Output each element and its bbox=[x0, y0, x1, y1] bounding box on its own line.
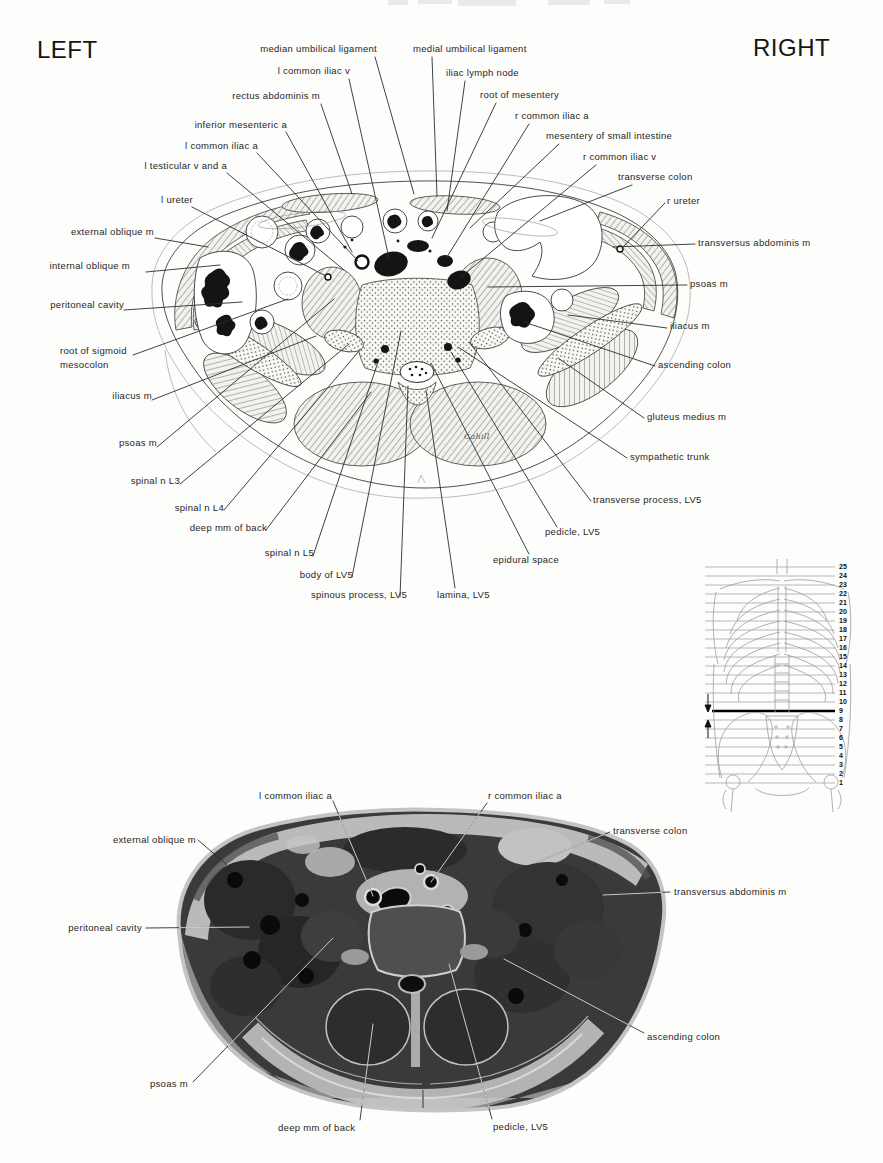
left-psoas-muscle bbox=[302, 267, 362, 339]
label-l-ureter: l ureter bbox=[161, 193, 193, 207]
scan-artifact bbox=[388, 0, 630, 6]
photo-label-deep-mm-of-back: deep mm of back bbox=[278, 1121, 355, 1135]
label-transverse-colon: transverse colon bbox=[618, 170, 693, 184]
figures-artwork bbox=[0, 0, 883, 1163]
leader-line bbox=[375, 57, 414, 194]
label-psoas-m-left: psoas m bbox=[119, 436, 157, 450]
label-spinal-n-L4: spinal n L4 bbox=[175, 501, 224, 515]
right-marker: RIGHT bbox=[753, 34, 830, 62]
leader-line bbox=[321, 104, 352, 194]
leader-line bbox=[432, 103, 496, 238]
locator-level-number: 5 bbox=[839, 743, 843, 750]
label-gluteus-medius-m: gluteus medius m bbox=[647, 410, 726, 424]
label-pedicle-LV5: pedicle, LV5 bbox=[545, 525, 600, 539]
photo-label-psoas-m: psoas m bbox=[150, 1077, 188, 1091]
locator-level-number: 9 bbox=[839, 707, 843, 714]
photo-label-pedicle-LV5: pedicle, LV5 bbox=[493, 1120, 548, 1134]
vertebral-canal bbox=[400, 362, 434, 383]
label-mesentery-of-small-intestine: mesentery of small intestine bbox=[546, 129, 672, 143]
leader-line bbox=[432, 57, 437, 196]
locator-level-number: 10 bbox=[839, 698, 847, 705]
locator-level-number: 13 bbox=[839, 671, 847, 678]
label-iliac-lymph-node: iliac lymph node bbox=[446, 66, 519, 80]
label-l-common-iliac-v: l common iliac v bbox=[278, 64, 350, 78]
locator-level-number: 12 bbox=[839, 680, 847, 687]
label-root-of-mesentery: root of mesentery bbox=[480, 88, 559, 102]
label-transverse-process-LV5: transverse process, LV5 bbox=[593, 493, 702, 507]
photo-vertebral-body bbox=[369, 905, 465, 977]
label-psoas-m-right: psoas m bbox=[690, 277, 728, 291]
locator-figure bbox=[705, 559, 851, 812]
atlas-page: LEFT RIGHT median umbilical ligament l c… bbox=[0, 0, 883, 1163]
label-iliacus-m-right: iliacus m bbox=[670, 319, 710, 333]
label-internal-oblique-m: internal oblique m bbox=[50, 259, 130, 273]
locator-level-number: 24 bbox=[839, 572, 847, 579]
leader-line bbox=[447, 81, 465, 211]
left-ureter bbox=[325, 274, 331, 280]
label-medial-umbilical-ligament: medial umbilical ligament bbox=[413, 42, 527, 56]
locator-level-number: 6 bbox=[839, 734, 843, 741]
locator-level-number: 7 bbox=[839, 725, 843, 732]
locator-level-number: 20 bbox=[839, 608, 847, 615]
locator-level-number: 19 bbox=[839, 617, 847, 624]
label-lamina-LV5: lamina, LV5 bbox=[437, 588, 490, 602]
photo-label-external-oblique-m: external oblique m bbox=[113, 833, 196, 847]
label-sympathetic-trunk: sympathetic trunk bbox=[630, 450, 710, 464]
label-root-of-sigmoid-mesocolon: root of sigmoid mesocolon bbox=[60, 344, 127, 372]
section-level-arrows bbox=[705, 694, 711, 738]
locator-level-number: 1 bbox=[839, 779, 843, 786]
photo-back-muscle-left bbox=[326, 989, 410, 1065]
label-peritoneal-cavity: peritoneal cavity bbox=[50, 298, 124, 312]
photo-transverse-colon bbox=[498, 828, 572, 866]
locator-level-number: 25 bbox=[839, 563, 847, 570]
label-ascending-colon: ascending colon bbox=[658, 358, 731, 372]
photo-label-r-common-iliac-a: r common iliac a bbox=[488, 789, 562, 803]
label-r-common-iliac-a: r common iliac a bbox=[515, 109, 589, 123]
locator-level-number: 4 bbox=[839, 752, 843, 759]
locator-level-number: 8 bbox=[839, 716, 843, 723]
label-spinal-n-L3: spinal n L3 bbox=[131, 474, 180, 488]
left-common-iliac-artery bbox=[356, 256, 369, 269]
label-inferior-mesenteric-a: inferior mesenteric a bbox=[195, 118, 287, 132]
drawing-cross-section bbox=[152, 171, 690, 498]
photo-label-transverse-colon: transverse colon bbox=[613, 824, 688, 838]
photo-label-ascending-colon: ascending colon bbox=[647, 1030, 720, 1044]
photo-vertebral-canal bbox=[399, 975, 425, 993]
locator-level-number: 18 bbox=[839, 626, 847, 633]
locator-level-number: 17 bbox=[839, 635, 847, 642]
label-r-ureter: r ureter bbox=[667, 194, 700, 208]
label-rectus-abdominis-m: rectus abdominis m bbox=[232, 89, 320, 103]
photo-label-peritoneal-cavity: peritoneal cavity bbox=[68, 921, 142, 935]
label-deep-mm-of-back: deep mm of back bbox=[190, 521, 267, 535]
label-spinal-n-L5: spinal n L5 bbox=[265, 546, 314, 560]
artist-signature: Cahill bbox=[464, 432, 490, 441]
label-iliacus-m-left: iliacus m bbox=[112, 389, 152, 403]
transverse-colon-loop bbox=[495, 196, 602, 280]
photo-label-l-common-iliac-a: l common iliac a bbox=[259, 789, 332, 803]
label-body-of-LV5: body of LV5 bbox=[300, 568, 353, 582]
locator-level-number: 22 bbox=[839, 590, 847, 597]
locator-level-number: 15 bbox=[839, 653, 847, 660]
left-common-iliac-vein bbox=[372, 248, 411, 280]
leader-line bbox=[155, 238, 208, 247]
locator-level-number: 14 bbox=[839, 662, 847, 669]
locator-level-number: 23 bbox=[839, 581, 847, 588]
label-r-common-iliac-v: r common iliac v bbox=[583, 150, 656, 164]
photo-back-muscle-right bbox=[424, 989, 508, 1065]
locator-level-number: 3 bbox=[839, 761, 843, 768]
locator-level-number: 2 bbox=[839, 770, 843, 777]
label-median-umbilical-ligament: median umbilical ligament bbox=[260, 42, 377, 56]
photo-left-common-iliac-artery bbox=[365, 889, 381, 905]
down-arrow-icon bbox=[705, 694, 711, 712]
label-external-oblique-m: external oblique m bbox=[71, 225, 154, 239]
locator-level-number: 11 bbox=[839, 689, 846, 696]
right-spinal-nerve bbox=[444, 343, 452, 351]
photo-cross-section bbox=[179, 810, 665, 1125]
label-l-testicular-v-and-a: l testicular v and a bbox=[144, 159, 227, 173]
label-l-common-iliac-a: l common iliac a bbox=[185, 139, 258, 153]
right-common-iliac-artery bbox=[437, 255, 453, 267]
label-spinous-process-LV5: spinous process, LV5 bbox=[311, 588, 407, 602]
left-marker: LEFT bbox=[37, 36, 98, 64]
label-epidural-space: epidural space bbox=[493, 553, 559, 567]
locator-level-number: 16 bbox=[839, 644, 847, 651]
